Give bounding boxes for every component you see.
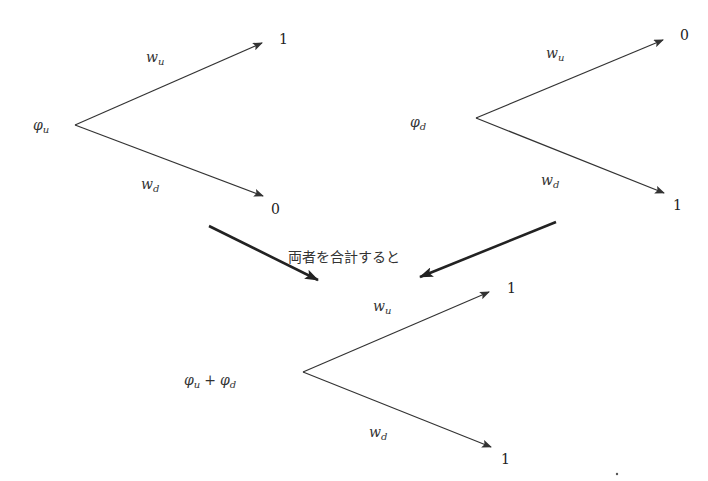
down-weight-label: wd (369, 424, 387, 442)
up-weight-label: wu (146, 49, 164, 67)
up-weight-label: wu (546, 45, 564, 63)
down-weight-label: wd (141, 176, 159, 194)
up-value: 1 (279, 31, 288, 47)
combine-section: 両者を合計すると (209, 222, 556, 280)
down-value: 1 (673, 197, 682, 213)
tree-phi-d: φd wu wd 0 1 (410, 27, 689, 213)
tree-sum: φu+φd wu wd 1 1 (184, 280, 516, 467)
combine-caption: 両者を合計すると (288, 249, 400, 265)
up-branch-arrow (476, 40, 663, 118)
down-branch-arrow (75, 125, 263, 196)
up-branch-arrow (75, 43, 262, 125)
root-label-phi-d: φd (410, 114, 426, 132)
up-branch-arrow (303, 292, 489, 372)
tree-phi-u: φu wu wd 1 0 (33, 31, 288, 217)
down-value: 0 (271, 201, 280, 217)
combine-arrow-right (420, 222, 556, 277)
down-branch-arrow (476, 118, 664, 193)
up-value: 1 (507, 280, 516, 296)
down-value: 1 (501, 451, 510, 467)
up-weight-label: wu (373, 298, 391, 316)
up-value: 0 (680, 27, 689, 43)
binomial-tree-diagram: φu wu wd 1 0 φd wu wd 0 1 両者を合計すると φu+φd… (0, 0, 708, 481)
stray-dot (616, 473, 618, 475)
root-label-phi-u: φu (33, 117, 49, 135)
root-label-sum: φu+φd (184, 372, 236, 390)
down-weight-label: wd (541, 172, 559, 190)
down-branch-arrow (303, 372, 491, 447)
